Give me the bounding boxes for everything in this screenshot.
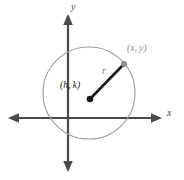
circle-shape <box>43 47 135 139</box>
point-on-circle-dot <box>121 61 127 67</box>
radius-label: r <box>102 66 106 76</box>
center-point-dot <box>87 96 94 103</box>
x-axis-left-arrow-icon <box>8 113 19 123</box>
radius-segment <box>90 64 124 99</box>
x-axis-right-arrow-icon <box>151 113 162 123</box>
y-axis-bottom-arrow-icon <box>63 161 73 172</box>
diagram-canvas <box>0 0 184 180</box>
y-axis-top-arrow-icon <box>63 14 73 25</box>
x-axis-label: x <box>167 107 171 118</box>
center-point-label: (h, k) <box>60 80 80 90</box>
y-axis-label: y <box>71 1 75 12</box>
circle-diagram-figure: y x (h, k) r (x, y) <box>0 0 184 180</box>
point-on-circle-label: (x, y) <box>127 43 147 53</box>
